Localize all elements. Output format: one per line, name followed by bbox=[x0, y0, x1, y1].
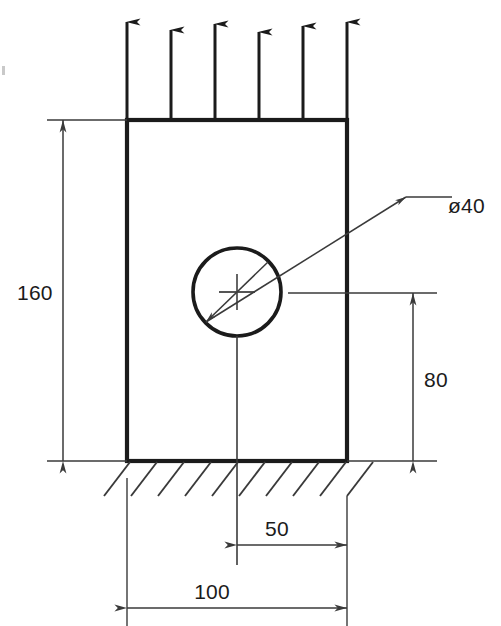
dimension-height-160: 160 bbox=[17, 120, 127, 461]
scan-artifact bbox=[2, 66, 5, 75]
technical-drawing-svg: 160 80 50 100 ø40 bbox=[0, 0, 501, 626]
dimension-hole-offset-50: 50 bbox=[237, 496, 347, 570]
dimension-label-80: 80 bbox=[424, 368, 448, 391]
hatch-line bbox=[158, 462, 184, 496]
hatch-line bbox=[131, 462, 157, 496]
hatch-line bbox=[239, 462, 265, 496]
hatch-line bbox=[347, 462, 373, 496]
hatch-line bbox=[185, 462, 211, 496]
dimension-label-160: 160 bbox=[17, 281, 53, 304]
distributed-load-arrows bbox=[127, 22, 347, 120]
dimension-label-50: 50 bbox=[265, 517, 289, 540]
dimension-label-100: 100 bbox=[194, 580, 230, 603]
hatch-line bbox=[293, 462, 319, 496]
hatch-line bbox=[266, 462, 292, 496]
diameter-label-40: ø40 bbox=[448, 194, 485, 217]
leader-diameter-line bbox=[206, 262, 268, 322]
hatch-line bbox=[104, 462, 130, 496]
hatch-line bbox=[320, 462, 346, 496]
engineering-drawing-canvas: 160 80 50 100 ø40 bbox=[0, 0, 501, 626]
fixed-support-hatching bbox=[104, 462, 373, 496]
leader-diagonal bbox=[206, 197, 406, 322]
dimension-hole-height-80: 80 bbox=[347, 293, 448, 461]
hatch-line bbox=[212, 462, 238, 496]
